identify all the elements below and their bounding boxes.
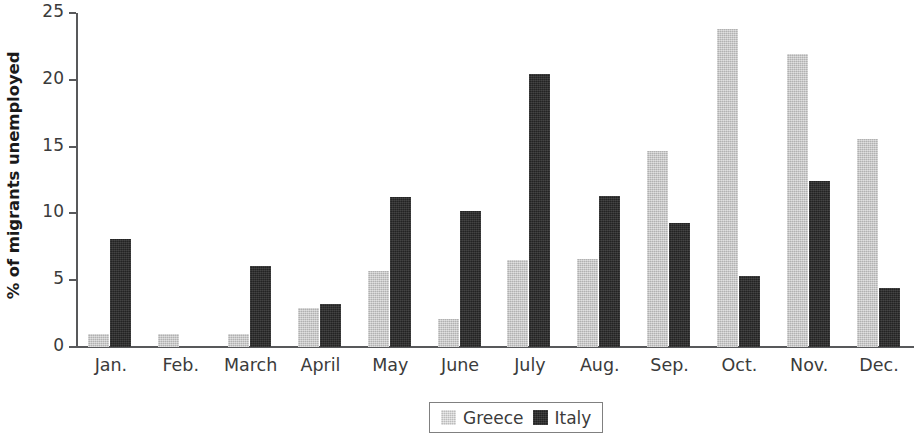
legend-label-greece: Greece bbox=[463, 408, 524, 428]
bar-italy-sep bbox=[669, 223, 690, 347]
y-axis-tick bbox=[69, 212, 76, 214]
y-axis-tick-label: 25 bbox=[20, 1, 64, 21]
bar-greece-june bbox=[438, 319, 459, 347]
y-axis-title: % of migrants unemployed bbox=[0, 0, 28, 350]
bar-italy-march bbox=[250, 266, 271, 347]
bar-greece-july bbox=[507, 260, 528, 347]
bar-greece-may bbox=[368, 271, 389, 347]
bar-greece-march bbox=[228, 334, 249, 347]
x-axis-tick-label: Nov. bbox=[774, 355, 844, 375]
bar-italy-may bbox=[390, 197, 411, 347]
y-axis-tick-label: 0 bbox=[20, 335, 64, 355]
x-axis-tick-label: June bbox=[425, 355, 495, 375]
bar-italy-april bbox=[320, 304, 341, 347]
bar-chart: % of migrants unemployed 0510152025 Jan.… bbox=[0, 0, 920, 437]
bar-greece-sep bbox=[647, 151, 668, 347]
x-axis-tick-label: Aug. bbox=[565, 355, 635, 375]
bar-italy-june bbox=[460, 211, 481, 347]
bar-greece-april bbox=[298, 308, 319, 347]
y-axis-tick bbox=[69, 79, 76, 81]
y-axis-tick-label: 15 bbox=[20, 135, 64, 155]
y-axis-title-text: % of migrants unemployed bbox=[5, 51, 24, 299]
x-axis-tick-label: Jan. bbox=[76, 355, 146, 375]
x-axis-tick-label: March bbox=[216, 355, 286, 375]
bar-greece-aug bbox=[577, 259, 598, 347]
bar-greece-feb bbox=[158, 334, 179, 347]
greece-swatch bbox=[441, 410, 456, 425]
legend-entry-greece: Greece bbox=[441, 408, 524, 428]
bar-greece-oct bbox=[717, 29, 738, 347]
x-axis-tick-label: Feb. bbox=[146, 355, 216, 375]
y-axis-tick-label: 5 bbox=[20, 268, 64, 288]
x-axis-tick-label: April bbox=[286, 355, 356, 375]
italy-swatch bbox=[533, 410, 548, 425]
y-axis-tick-label: 20 bbox=[20, 68, 64, 88]
bar-italy-aug bbox=[599, 196, 620, 347]
x-axis-tick-label: Dec. bbox=[844, 355, 914, 375]
bar-greece-dec bbox=[857, 139, 878, 347]
bar-italy-july bbox=[529, 74, 550, 347]
x-axis-tick-label: Oct. bbox=[705, 355, 775, 375]
chart-legend: GreeceItaly bbox=[429, 402, 603, 433]
bar-greece-nov bbox=[787, 54, 808, 347]
legend-entry-italy: Italy bbox=[533, 408, 592, 428]
y-axis-tick bbox=[69, 146, 76, 148]
bar-italy-jan bbox=[110, 239, 131, 347]
bar-italy-oct bbox=[739, 276, 760, 347]
x-axis-tick-label: Sep. bbox=[635, 355, 705, 375]
x-axis-tick-label: July bbox=[495, 355, 565, 375]
x-axis-tick-label: May bbox=[355, 355, 425, 375]
y-axis-tick-label: 10 bbox=[20, 201, 64, 221]
plot-area bbox=[76, 13, 914, 347]
bar-greece-jan bbox=[88, 334, 109, 347]
y-axis-tick bbox=[69, 279, 76, 281]
legend-label-italy: Italy bbox=[555, 408, 592, 428]
bar-italy-nov bbox=[809, 181, 830, 347]
bar-italy-dec bbox=[879, 288, 900, 347]
y-axis-tick bbox=[69, 12, 76, 14]
y-axis-tick bbox=[69, 346, 76, 348]
